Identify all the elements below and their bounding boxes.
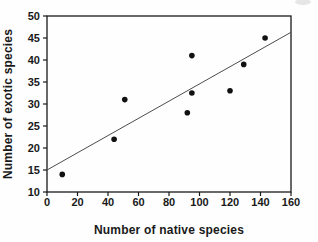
y-tick-label: 35 <box>28 76 40 88</box>
x-tick-label: 20 <box>71 196 83 208</box>
data-point <box>241 62 247 68</box>
y-axis-title: Number of exotic species <box>1 29 15 179</box>
scatter-plot: 020406080100120140160 101520253035404550… <box>0 0 318 242</box>
x-tick-label: 80 <box>163 196 175 208</box>
data-point <box>111 136 117 142</box>
x-tick-label: 140 <box>251 196 269 208</box>
x-tick-label: 120 <box>221 196 239 208</box>
data-points <box>59 35 267 177</box>
data-point <box>227 88 233 94</box>
plot-area-border <box>47 16 291 192</box>
data-point <box>189 53 195 59</box>
data-point <box>122 97 128 103</box>
trend-line <box>47 32 291 170</box>
y-tick-label: 25 <box>28 120 40 132</box>
y-tick-label: 30 <box>28 98 40 110</box>
scan-artifact <box>295 0 311 5</box>
data-point <box>189 90 195 96</box>
y-tick-label: 50 <box>28 10 40 22</box>
scatter-figure: 020406080100120140160 101520253035404550… <box>0 0 318 242</box>
x-tick-label: 100 <box>190 196 208 208</box>
x-tick-label: 40 <box>102 196 114 208</box>
x-tick-label: 160 <box>282 196 300 208</box>
y-tick-label: 10 <box>28 186 40 198</box>
x-tick-label: 0 <box>44 196 50 208</box>
data-point <box>59 172 65 178</box>
x-tick-label: 60 <box>132 196 144 208</box>
y-tick-label: 40 <box>28 54 40 66</box>
y-tick-label: 20 <box>28 142 40 154</box>
y-tick-label: 45 <box>28 32 40 44</box>
x-axis-title: Number of native species <box>94 223 244 237</box>
data-point <box>185 110 191 116</box>
y-axis-ticks: 101520253035404550 <box>28 10 47 198</box>
data-point <box>262 35 268 41</box>
y-tick-label: 15 <box>28 164 40 176</box>
x-axis-ticks: 020406080100120140160 <box>44 192 300 208</box>
